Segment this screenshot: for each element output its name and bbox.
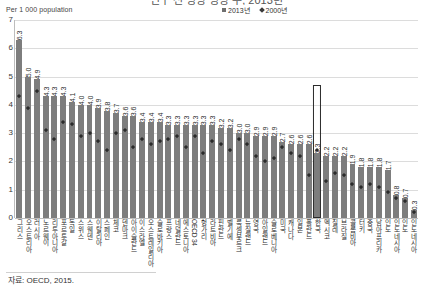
bar-15[interactable]: 3.4 [148, 122, 154, 218]
bar-2[interactable]: 4.9 [34, 79, 40, 218]
bar-24[interactable]: 3.2 [227, 128, 233, 219]
legend-item-2000: 2000년 [260, 5, 288, 15]
bar-slot[interactable]: 2.7 [278, 20, 287, 218]
bar-slot[interactable]: 4.0 [85, 20, 94, 218]
bar-30[interactable]: 2.7 [279, 142, 285, 218]
x-axis-label-text: 아일랜드 [260, 219, 267, 246]
bar-slot[interactable]: 2.9 [252, 20, 261, 218]
bar-slot[interactable]: 3.9 [94, 20, 103, 218]
x-axis-label-text: 체코 [111, 219, 118, 233]
bar-slot[interactable]: 4.1 [68, 20, 77, 218]
bar-slot[interactable]: 3.4 [146, 20, 155, 218]
bar-10[interactable]: 3.8 [104, 111, 110, 218]
bar-slot[interactable]: 2.3 [313, 20, 322, 218]
bar-16[interactable]: 3.4 [157, 122, 163, 218]
bar-3[interactable]: 4.3 [43, 96, 49, 218]
bar-39[interactable]: 1.8 [358, 167, 364, 218]
bar-slot[interactable]: 3.6 [120, 20, 129, 218]
x-axis-label-text: 룩셈부르크 [234, 219, 241, 253]
bar-slot[interactable]: 3.3 [182, 20, 191, 218]
bar-40[interactable]: 1.8 [367, 167, 373, 218]
x-axis-label-text: 그리스 [15, 219, 22, 239]
bar-slot[interactable]: 3.3 [199, 20, 208, 218]
bar-35[interactable]: 2.2 [323, 156, 329, 218]
bar-18[interactable]: 3.3 [174, 125, 180, 218]
bar-slot[interactable]: 2.6 [304, 20, 313, 218]
bar-slot[interactable]: 3.0 [243, 20, 252, 218]
bar-value-label: 3.4 [147, 112, 154, 122]
bar-slot[interactable]: 3.7 [111, 20, 120, 218]
bar-slot[interactable]: 3.8 [103, 20, 112, 218]
bar-37[interactable]: 2.2 [341, 156, 347, 218]
bar-slot[interactable]: 1.7 [383, 20, 392, 218]
bar-slot[interactable]: 2.9 [260, 20, 269, 218]
bar-slot[interactable]: 3.2 [217, 20, 226, 218]
x-axis-label-text: 뉴질랜드 [243, 219, 250, 246]
bar-slot[interactable]: 3.6 [129, 20, 138, 218]
bar-slot[interactable]: 3.4 [155, 20, 164, 218]
bar-slot[interactable]: 2.9 [269, 20, 278, 218]
y-axis-unit-label: Per 1 000 population [6, 6, 73, 13]
x-axis-label-2: 러시아 [32, 219, 41, 271]
bar-value-label: 3.3 [165, 115, 172, 125]
bar-slot[interactable]: 1.9 [348, 20, 357, 218]
bar-slot[interactable]: 1.8 [357, 20, 366, 218]
bar-slot[interactable]: 1.8 [374, 20, 383, 218]
bar-slot[interactable]: 4.9 [33, 20, 42, 218]
bar-7[interactable]: 4.0 [78, 105, 84, 218]
bar-slot[interactable]: 5.0 [24, 20, 33, 218]
bar-13[interactable]: 3.6 [130, 116, 136, 218]
bar-slot[interactable]: 3.3 [173, 20, 182, 218]
bar-slot[interactable]: 2.6 [287, 20, 296, 218]
bar-value-label: 3.3 [182, 115, 189, 125]
bar-slot[interactable]: 2.6 [296, 20, 305, 218]
bar-28[interactable]: 2.9 [262, 136, 268, 218]
bar-27[interactable]: 2.9 [253, 136, 259, 218]
bar-6[interactable]: 4.1 [69, 102, 75, 218]
bar-slot[interactable]: 0.7 [401, 20, 410, 218]
bar-slot[interactable]: 3.2 [225, 20, 234, 218]
bar-11[interactable]: 3.7 [113, 113, 119, 218]
bar-slot[interactable]: 4.3 [59, 20, 68, 218]
source-divider [6, 272, 156, 273]
bar-value-label: 1.8 [358, 158, 365, 168]
bar-slot[interactable]: 0.3 [409, 20, 418, 218]
bar-value-label: 1.8 [375, 158, 382, 168]
bar-slot[interactable]: 3.3 [190, 20, 199, 218]
bar-slot[interactable]: 4.3 [50, 20, 59, 218]
bar-slot[interactable]: 0.8 [392, 20, 401, 218]
bar-slot[interactable]: 3.3 [164, 20, 173, 218]
bar-33[interactable]: 2.6 [306, 144, 312, 218]
bar-25[interactable]: 3.0 [236, 133, 242, 218]
bar-slot[interactable]: 3.3 [208, 20, 217, 218]
bar-1[interactable]: 5.0 [25, 77, 31, 218]
bar-slot[interactable]: 1.8 [366, 20, 375, 218]
x-axis-label-13: 아이슬란드 [128, 219, 137, 271]
bar-0[interactable]: 6.3 [16, 40, 22, 218]
x-axis-label-45: 인도네시아 [408, 219, 417, 271]
bar-41[interactable]: 1.8 [376, 167, 382, 218]
bar-slot[interactable]: 3.0 [234, 20, 243, 218]
bar-value-label: 2.9 [261, 127, 268, 137]
bar-slot[interactable]: 6.3 [15, 20, 24, 218]
bar-slot[interactable]: 4.3 [41, 20, 50, 218]
bar-slot[interactable]: 2.2 [331, 20, 340, 218]
bar-38[interactable]: 1.9 [350, 164, 356, 218]
bar-value-label: 6.3 [16, 30, 23, 40]
x-axis-label-text: 영국 [252, 219, 259, 233]
bar-21[interactable]: 3.3 [200, 125, 206, 218]
bar-9[interactable]: 3.9 [95, 108, 101, 218]
bar-36[interactable]: 2.2 [332, 156, 338, 218]
bar-19[interactable]: 3.3 [183, 125, 189, 218]
bar-31[interactable]: 2.6 [288, 144, 294, 218]
bar-slot[interactable]: 2.2 [322, 20, 331, 218]
bar-8[interactable]: 4.0 [87, 105, 93, 218]
bar-34[interactable]: 2.3 [314, 153, 320, 218]
bar-slot[interactable]: 3.4 [138, 20, 147, 218]
bar-5[interactable]: 4.3 [60, 96, 66, 218]
x-axis-label-3: 노르웨이 [40, 219, 49, 271]
bar-slot[interactable]: 4.0 [76, 20, 85, 218]
bar-4[interactable]: 4.3 [51, 96, 57, 218]
bar-slot[interactable]: 2.2 [339, 20, 348, 218]
bar-29[interactable]: 2.9 [271, 136, 277, 218]
